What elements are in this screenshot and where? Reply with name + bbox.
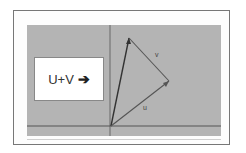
sum-label-box: U+V ➔ [34, 57, 104, 101]
vector-u-plus-v [111, 38, 129, 126]
vector-u-label: u [143, 104, 147, 111]
sum-label: U+V [48, 72, 74, 87]
right-arrow-icon: ➔ [78, 71, 90, 87]
arrowhead-u-icon [163, 81, 169, 87]
vector-v [129, 38, 169, 81]
bottom-rule [27, 139, 221, 140]
vector-u [111, 81, 169, 126]
vector-v-label: v [155, 51, 159, 58]
